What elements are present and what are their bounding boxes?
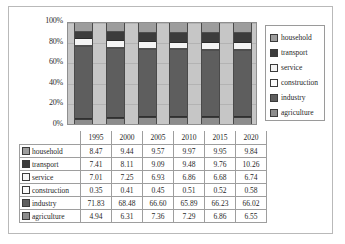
legend-item-industry[interactable]: industry [270, 90, 322, 105]
bar-segment-service[interactable] [107, 41, 124, 48]
legend-label: transport [281, 49, 308, 57]
bar-segment-service[interactable] [202, 43, 219, 50]
bar-segment-household[interactable] [202, 23, 219, 33]
bar-segment-agriculture[interactable] [107, 118, 124, 124]
gridline [68, 43, 256, 44]
bar-column[interactable] [201, 23, 220, 124]
table-cell: 9.95 [205, 145, 236, 158]
bar-segment-agriculture[interactable] [234, 117, 251, 124]
series-label: agriculture [32, 212, 64, 221]
series-swatch-icon [22, 147, 30, 155]
legend-item-household[interactable]: household [270, 30, 322, 45]
table-column-header: 1995 [81, 131, 112, 145]
table-cell: 9.09 [143, 158, 174, 171]
plot-area [67, 22, 257, 125]
bar-segment-household[interactable] [139, 23, 156, 33]
bar-segment-service[interactable] [139, 42, 156, 49]
bar-segment-transport[interactable] [107, 32, 124, 40]
bar-segment-agriculture[interactable] [139, 117, 156, 124]
bar-segment-agriculture[interactable] [202, 117, 219, 124]
legend-label: household [281, 34, 312, 42]
gridline [68, 63, 256, 64]
row-header-content: agriculture [22, 212, 78, 221]
y-axis-tick: 40% [49, 79, 63, 87]
bar-segment-service[interactable] [75, 39, 92, 46]
bar-segment-industry[interactable] [75, 47, 92, 119]
bar-segment-agriculture[interactable] [75, 119, 92, 124]
bar-segment-household[interactable] [107, 23, 124, 32]
series-label: service [32, 173, 53, 182]
table-row: agriculture4.946.317.367.296.866.55 [20, 210, 267, 223]
bar-column[interactable] [138, 23, 157, 124]
table-row: service7.017.256.936.866.686.74 [20, 171, 267, 184]
y-axis-tick: 80% [49, 38, 63, 46]
bar-segment-transport[interactable] [139, 33, 156, 42]
legend-item-construction[interactable]: construction [270, 75, 322, 90]
table-cell: 10.26 [236, 158, 267, 171]
table-cell: 6.93 [143, 171, 174, 184]
table-row-header-agriculture: agriculture [20, 210, 81, 223]
bar-segment-transport[interactable] [75, 32, 92, 39]
bar-segment-household[interactable] [234, 23, 251, 33]
bar-segment-household[interactable] [75, 23, 92, 32]
table-cell: 66.60 [143, 197, 174, 210]
legend-item-agriculture[interactable]: agriculture [270, 105, 322, 120]
bar-segment-service[interactable] [234, 43, 251, 50]
legend-swatch-icon [270, 79, 278, 87]
bar-column[interactable] [74, 23, 93, 124]
bar-segment-household[interactable] [170, 23, 187, 33]
table-column-header: 2020 [236, 131, 267, 145]
bar-segment-industry[interactable] [202, 51, 219, 118]
table-cell: 66.02 [236, 197, 267, 210]
table-cell: 7.25 [112, 171, 143, 184]
bar-segment-industry[interactable] [170, 50, 187, 116]
table-cell: 0.41 [112, 184, 143, 197]
series-label: transport [32, 160, 59, 169]
bar-column[interactable] [233, 23, 252, 124]
table-cell: 6.68 [205, 171, 236, 184]
legend-label: agriculture [281, 109, 313, 117]
table-cell: 65.89 [174, 197, 205, 210]
gridline [68, 84, 256, 85]
legend-swatch-icon [270, 94, 278, 102]
bar-segment-agriculture[interactable] [170, 117, 187, 124]
table-cell: 9.48 [174, 158, 205, 171]
table-year-header-row: 199520002005201020152020 [20, 131, 267, 145]
chart-legend: householdtransportserviceconstructionind… [265, 25, 325, 121]
legend-item-service[interactable]: service [270, 60, 322, 75]
table-cell: 6.86 [174, 171, 205, 184]
bar-column[interactable] [169, 23, 188, 124]
legend-item-transport[interactable]: transport [270, 45, 322, 60]
table-row: construction0.350.410.450.510.520.58 [20, 184, 267, 197]
bar-segment-transport[interactable] [202, 33, 219, 43]
table-cell: 7.01 [81, 171, 112, 184]
bar-segment-industry[interactable] [139, 50, 156, 117]
bar-column[interactable] [106, 23, 125, 124]
bar-segment-service[interactable] [170, 43, 187, 50]
row-header-content: service [22, 173, 78, 182]
data-table-body: 199520002005201020152020household8.479.4… [20, 131, 267, 223]
row-header-content: transport [22, 160, 78, 169]
table-cell: 4.94 [81, 210, 112, 223]
table-row-header-transport: transport [20, 158, 81, 171]
gridline [68, 104, 256, 105]
table-column-header: 2015 [205, 131, 236, 145]
table-cell: 7.41 [81, 158, 112, 171]
table-row-header-service: service [20, 171, 81, 184]
table-column-header: 2010 [174, 131, 205, 145]
bar-segment-transport[interactable] [170, 33, 187, 43]
bar-segment-transport[interactable] [234, 33, 251, 43]
table-cell: 0.35 [81, 184, 112, 197]
legend-swatch-icon [270, 64, 278, 72]
legend-label: service [281, 64, 302, 72]
table-row: transport7.418.119.099.489.7610.26 [20, 158, 267, 171]
data-table: 199520002005201020152020household8.479.4… [19, 131, 267, 223]
bar-segment-industry[interactable] [107, 49, 124, 118]
series-label: household [32, 147, 63, 156]
table-cell: 7.36 [143, 210, 174, 223]
bar-segment-industry[interactable] [234, 51, 251, 117]
chart-frame: 100%80%60%40%20%0% householdtransportser… [8, 6, 333, 234]
table-cell: 9.44 [112, 145, 143, 158]
table-cell: 9.76 [205, 158, 236, 171]
table-row: household8.479.449.579.979.959.84 [20, 145, 267, 158]
